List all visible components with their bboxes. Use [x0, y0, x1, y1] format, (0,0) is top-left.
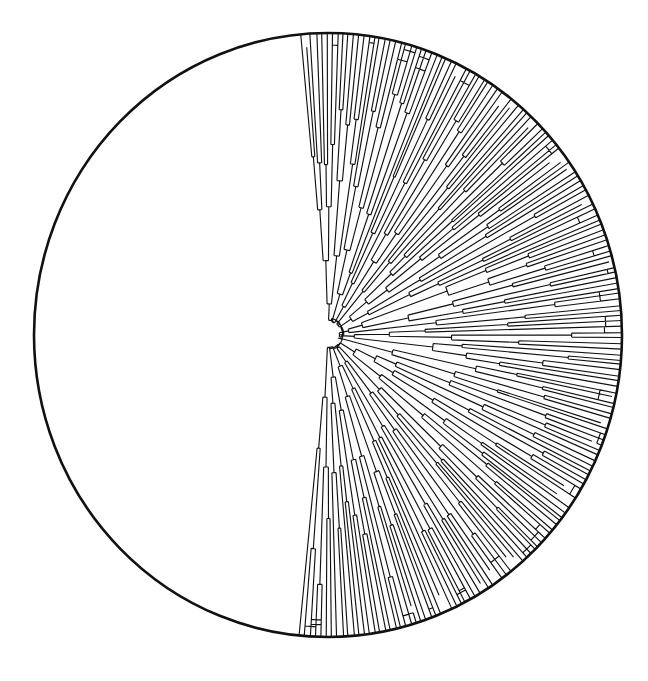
circular-dendrogram-plot [0, 0, 648, 681]
figure-root [0, 0, 648, 681]
plot-background [0, 0, 648, 681]
